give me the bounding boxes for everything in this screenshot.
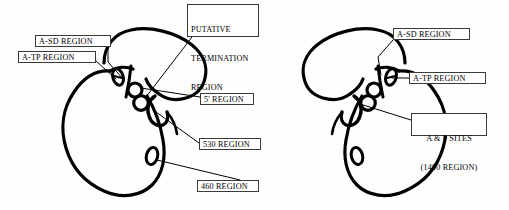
- label-putative-line-1: PUTATIVE: [191, 25, 255, 35]
- label-right-a-tp-region[interactable]: A-TP REGION: [409, 72, 486, 84]
- label-putative-line-3: REGION: [191, 83, 255, 93]
- label-ap-sites-1400-region[interactable]: A & P SITES (1400 REGION): [411, 113, 487, 136]
- right-tail-strand: [332, 112, 342, 134]
- label-530-region[interactable]: 530 REGION: [199, 138, 261, 150]
- label-left-a-tp-region[interactable]: A-TP REGION: [18, 51, 96, 63]
- label-460-region[interactable]: 460 REGION: [197, 180, 259, 192]
- right-1400-loop: [349, 146, 364, 165]
- leader-ap-sites: [360, 104, 411, 120]
- label-left-a-sd-region[interactable]: A-SD REGION: [35, 35, 111, 47]
- leader-460: [157, 160, 240, 180]
- left-head-neck-connector: [146, 79, 159, 94]
- label-right-a-sd-region[interactable]: A-SD REGION: [393, 28, 470, 40]
- right-upper-lobe-outline: [303, 29, 405, 100]
- left-loop-lower-circle: [134, 96, 149, 111]
- figure-canvas: A-SD REGION A-TP REGION PUTATIVE TERMINA…: [0, 0, 509, 210]
- label-putative-termination-region[interactable]: PUTATIVE TERMINATION REGION: [187, 4, 259, 37]
- label-five-prime-region[interactable]: 5' REGION: [200, 93, 254, 105]
- label-putative-line-2: TERMINATION: [191, 54, 255, 64]
- label-ap-sites-line-1: A & P SITES: [415, 134, 483, 144]
- left-460-loop: [144, 146, 159, 165]
- label-ap-sites-line-2: (1400 REGION): [415, 163, 483, 173]
- right-head-neck-connector: [350, 79, 363, 94]
- leader-putative-termination: [146, 37, 192, 97]
